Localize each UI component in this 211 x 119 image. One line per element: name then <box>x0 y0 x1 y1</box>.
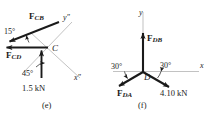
fig-e-force-fcb-arrow <box>10 22 60 42</box>
figure-panel: FCB FCD 15° 45° 1.5 kN C y″ x″ (e) y x F… <box>0 0 211 119</box>
fig-e-angle-15-arc <box>27 36 30 43</box>
fig-f-force-fda-label: FDA <box>117 89 132 99</box>
fig-f-force-fdb-label: FDB <box>147 34 162 44</box>
fig-f-point-label: D <box>144 73 151 82</box>
fig-f-angle-30-right-arc <box>158 72 162 79</box>
fig-f-magnitude-label: 4.10 kN <box>160 89 187 98</box>
fig-e-caption: (e) <box>42 101 51 110</box>
fig-e-force-fcd-label: FCD <box>6 51 21 61</box>
fig-f-yaxis-label: y <box>139 9 143 17</box>
fig-f-xaxis-label: x <box>200 62 204 70</box>
fig-e-angle-45-label: 45° <box>22 70 33 78</box>
fig-f-angle-30-left-arc <box>125 72 128 79</box>
fig-e-force-fcb-label: FCB <box>29 12 44 22</box>
fig-e-yaxis-label: y″ <box>63 14 70 22</box>
fig-e-angle-15-label: 15° <box>4 28 15 36</box>
fig-f-force-fda-arrow <box>119 72 143 86</box>
fig-e-point-label: C <box>52 44 58 53</box>
fig-f-caption: (f) <box>138 101 147 110</box>
fig-e-xaxis-line <box>30 32 80 78</box>
fig-e-xaxis-label: x″ <box>74 74 81 82</box>
fig-e-magnitude-label: 1.5 kN <box>22 84 45 93</box>
fig-f-angle-30-right-label: 30° <box>160 62 171 70</box>
fig-e-angle-45-arc <box>36 63 45 67</box>
fig-f-angle-30-left-label: 30° <box>111 63 122 71</box>
